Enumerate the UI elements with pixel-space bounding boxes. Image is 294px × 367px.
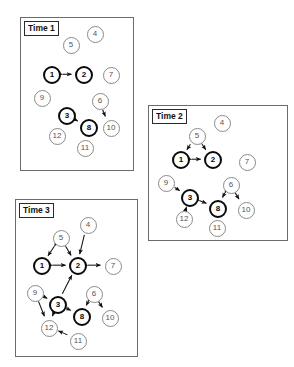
edge-3-8 — [200, 201, 207, 204]
node-label-3: 3 — [188, 194, 192, 202]
node-11[interactable]: 11 — [70, 333, 87, 350]
edge-3-2 — [62, 275, 71, 293]
node-label-5: 5 — [195, 132, 199, 140]
node-label-3: 3 — [65, 112, 69, 120]
node-4[interactable]: 4 — [87, 26, 104, 43]
node-label-5: 5 — [69, 41, 73, 49]
node-label-4: 4 — [86, 221, 90, 229]
node-3[interactable]: 3 — [181, 189, 199, 207]
edge-3-12 — [52, 314, 53, 316]
node-12[interactable]: 12 — [49, 128, 66, 145]
node-2[interactable]: 2 — [69, 257, 87, 275]
node-2[interactable]: 2 — [75, 66, 93, 84]
node-10[interactable]: 10 — [238, 202, 255, 219]
node-11[interactable]: 11 — [77, 140, 94, 157]
edge-11-12 — [58, 331, 67, 335]
node-label-10: 10 — [106, 314, 115, 322]
node-label-6: 6 — [92, 290, 96, 298]
node-label-8: 8 — [80, 313, 84, 321]
node-7[interactable]: 7 — [239, 154, 256, 171]
node-label-2: 2 — [76, 262, 80, 270]
node-6[interactable]: 6 — [86, 286, 103, 303]
node-label-6: 6 — [98, 97, 102, 105]
node-5[interactable]: 5 — [63, 37, 80, 54]
node-label-3: 3 — [56, 301, 60, 309]
node-1[interactable]: 1 — [172, 151, 190, 169]
edge-6-8 — [86, 302, 88, 305]
node-9[interactable]: 9 — [34, 90, 51, 107]
node-12[interactable]: 12 — [41, 320, 58, 337]
node-label-10: 10 — [107, 124, 116, 132]
node-label-9: 9 — [164, 179, 168, 187]
edge-5-2 — [66, 247, 71, 256]
node-label-2: 2 — [211, 156, 215, 164]
edge-6-10 — [235, 193, 239, 199]
edge-4-2 — [80, 235, 85, 254]
node-label-1: 1 — [50, 71, 54, 79]
node-label-4: 4 — [220, 119, 224, 127]
node-label-1: 1 — [179, 156, 183, 164]
node-label-4: 4 — [93, 30, 97, 38]
node-label-11: 11 — [213, 224, 221, 232]
node-label-6: 6 — [229, 181, 233, 189]
node-9[interactable]: 9 — [27, 285, 44, 302]
edge-5-1 — [187, 144, 191, 149]
node-7[interactable]: 7 — [103, 67, 120, 84]
node-12[interactable]: 12 — [176, 211, 193, 228]
node-5[interactable]: 5 — [53, 230, 70, 247]
node-label-8: 8 — [87, 124, 91, 132]
node-label-10: 10 — [242, 206, 251, 214]
node-label-11: 11 — [81, 144, 89, 152]
edge-6-10 — [99, 302, 103, 308]
node-label-12: 12 — [53, 132, 62, 140]
edge-9-3 — [44, 297, 47, 299]
edge-3-8 — [67, 309, 71, 311]
node-8[interactable]: 8 — [80, 119, 98, 137]
node-label-7: 7 — [245, 158, 249, 166]
edge-9-12 — [39, 302, 45, 317]
panel-label-time-3: Time 3 — [19, 203, 54, 218]
node-2[interactable]: 2 — [204, 151, 222, 169]
node-label-9: 9 — [33, 289, 37, 297]
node-6[interactable]: 6 — [223, 177, 240, 194]
node-label-12: 12 — [180, 215, 189, 223]
edge-5-2 — [202, 144, 206, 149]
node-4[interactable]: 4 — [80, 217, 97, 234]
node-label-9: 9 — [40, 94, 44, 102]
panel-label-time-2: Time 2 — [152, 109, 187, 124]
node-label-7: 7 — [111, 262, 115, 270]
node-label-2: 2 — [82, 71, 86, 79]
node-10[interactable]: 10 — [102, 310, 119, 327]
panel-label-time-1: Time 1 — [24, 21, 59, 36]
edge-9-3 — [175, 187, 180, 190]
panel-time-3: Time 3123456789101112 — [15, 199, 138, 357]
node-3[interactable]: 3 — [58, 107, 76, 125]
node-label-1: 1 — [40, 262, 44, 270]
node-1[interactable]: 1 — [43, 66, 61, 84]
node-label-7: 7 — [109, 71, 113, 79]
node-6[interactable]: 6 — [92, 93, 109, 110]
panel-time-2: Time 2123456789101112 — [148, 105, 288, 241]
node-8[interactable]: 8 — [209, 200, 227, 218]
edge-5-1 — [48, 246, 54, 255]
edge-3-8 — [76, 120, 78, 121]
panel-time-1: Time 1123456789101112 — [20, 17, 134, 171]
node-8[interactable]: 8 — [73, 308, 91, 326]
node-11[interactable]: 11 — [209, 220, 226, 237]
node-4[interactable]: 4 — [214, 115, 231, 132]
edge-6-10 — [103, 110, 106, 117]
node-3[interactable]: 3 — [49, 296, 67, 314]
node-label-12: 12 — [45, 324, 54, 332]
edge-6-8 — [222, 193, 224, 197]
node-label-8: 8 — [216, 205, 220, 213]
node-7[interactable]: 7 — [105, 258, 122, 275]
node-label-5: 5 — [59, 234, 63, 242]
node-1[interactable]: 1 — [33, 257, 51, 275]
node-10[interactable]: 10 — [103, 120, 120, 137]
node-9[interactable]: 9 — [158, 175, 175, 192]
node-5[interactable]: 5 — [189, 128, 206, 145]
node-label-11: 11 — [74, 337, 82, 345]
